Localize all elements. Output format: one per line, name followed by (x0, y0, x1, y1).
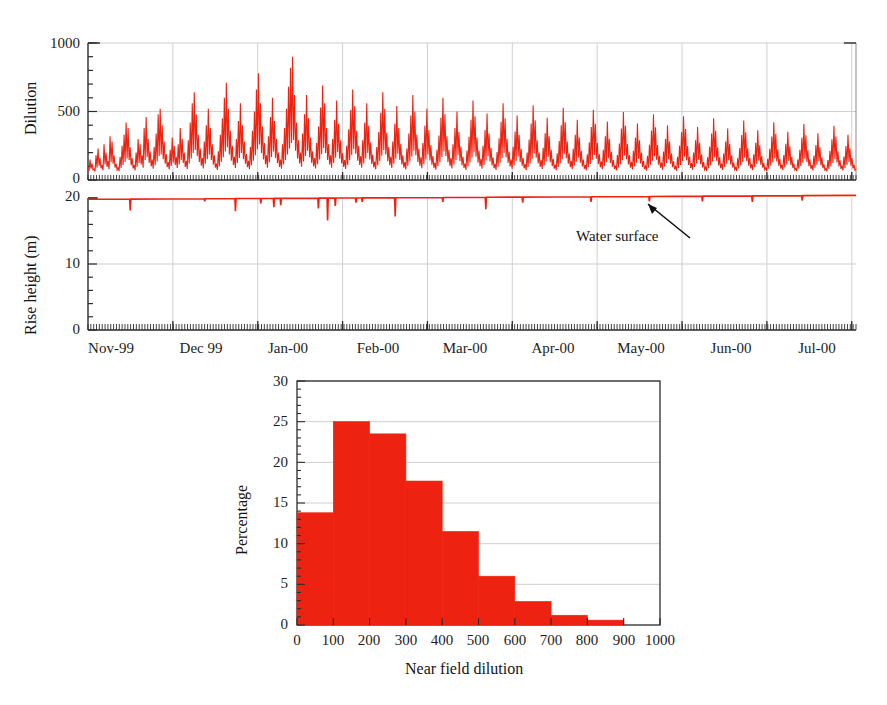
ytick-label-rise-10: 10 (28, 255, 80, 272)
plot-dilution-timeseries (0, 0, 887, 192)
ytick-label-dilution-1000: 1000 (28, 35, 80, 52)
xtick-label-hist-400: 400 (422, 632, 462, 649)
xtick-label-jul-00: Jul-00 (772, 340, 862, 357)
ytick-label-dilution-500: 500 (28, 103, 80, 120)
ytick-label-hist-0: 0 (240, 616, 288, 633)
figure-container: Dilution 1000 500 0 Rise height (m) 20 1… (0, 0, 887, 705)
xtick-label-hist-600: 600 (495, 632, 535, 649)
xtick-label-hist-200: 200 (349, 632, 389, 649)
xtick-label-nov-99: Nov-99 (66, 340, 156, 357)
xtick-label-jan-00: Jan-00 (243, 340, 333, 357)
xtick-label-mar-00: Mar-00 (420, 340, 510, 357)
xtick-label-hist-500: 500 (458, 632, 498, 649)
xtick-label-hist-800: 800 (567, 632, 607, 649)
ytick-label-hist-10: 10 (240, 535, 288, 552)
ytick-label-hist-15: 15 (240, 494, 288, 511)
xtick-label-hist-700: 700 (531, 632, 571, 649)
panel-rise-height-timeseries: Rise height (m) 20 10 0 Water surface No… (0, 190, 887, 365)
ytick-label-hist-25: 25 (240, 413, 288, 430)
axis-title-near-field-dilution: Near field dilution (405, 660, 523, 678)
xtick-label-hist-900: 900 (604, 632, 644, 649)
ytick-label-hist-20: 20 (240, 454, 288, 471)
panel-dilution-histogram: Percentage Near field dilution 30 25 20 … (0, 370, 887, 705)
xtick-label-dec-99: Dec 99 (156, 340, 246, 357)
xtick-label-apr-00: Apr-00 (508, 340, 598, 357)
xtick-label-hist-0: 0 (277, 632, 317, 649)
annotation-water-surface: Water surface (576, 228, 659, 245)
xtick-label-may-00: May-00 (596, 340, 686, 357)
plot-dilution-histogram (0, 370, 887, 705)
xtick-label-hist-1000: 1000 (640, 632, 680, 649)
xtick-label-hist-100: 100 (313, 632, 353, 649)
ytick-label-rise-0: 0 (28, 321, 80, 338)
ytick-label-dilution-0: 0 (28, 170, 80, 187)
xtick-label-feb-00: Feb-00 (333, 340, 423, 357)
ytick-label-hist-5: 5 (240, 575, 288, 592)
ytick-label-hist-30: 30 (240, 373, 288, 390)
xtick-label-jun-00: Jun-00 (686, 340, 776, 357)
ytick-label-rise-20: 20 (28, 188, 80, 205)
plot-rise-height-timeseries (0, 190, 887, 365)
panel-dilution-timeseries: Dilution 1000 500 0 (0, 0, 887, 192)
xtick-label-hist-300: 300 (386, 632, 426, 649)
